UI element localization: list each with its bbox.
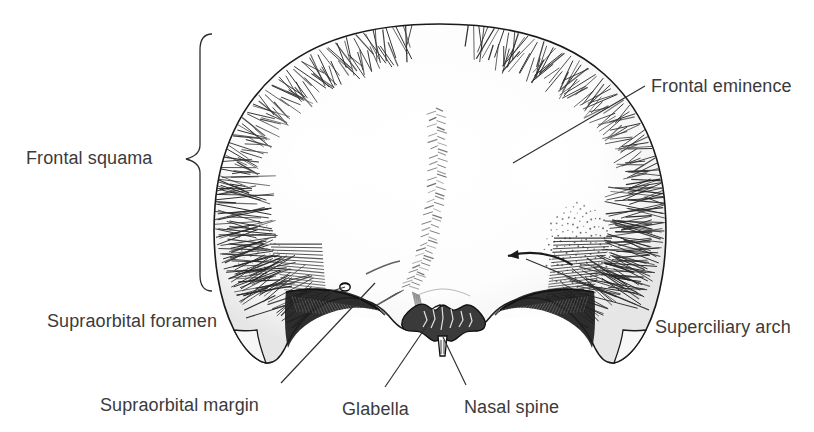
stipple-dot (610, 245, 612, 247)
stipple-dot (243, 233, 245, 235)
stipple-dot (261, 241, 263, 243)
stipple-dot (265, 234, 267, 236)
stipple-dot (585, 239, 587, 241)
stipple-dot (266, 225, 267, 226)
stipple-dot (601, 255, 603, 257)
stipple-dot (264, 255, 265, 256)
stipple-dot (594, 226, 596, 228)
stipple-dot (252, 263, 253, 264)
stipple-dot (549, 258, 551, 260)
stipple-dot (576, 286, 578, 288)
stipple-dot (237, 247, 239, 249)
stipple-dot (585, 232, 586, 233)
stipple-dot (575, 254, 577, 256)
hatch-stroke (542, 314, 561, 350)
hatch-stroke (554, 241, 611, 242)
stipple-dot (584, 268, 586, 270)
stipple-dot (265, 240, 267, 242)
stipple-dot (263, 229, 265, 231)
stipple-dot (252, 269, 253, 270)
stipple-dot (245, 246, 247, 248)
stipple-dot (250, 255, 252, 257)
stipple-dot (247, 261, 249, 263)
stipple-dot (273, 265, 275, 267)
stipple-dot (596, 286, 597, 287)
stipple-dot (600, 268, 602, 270)
hatch-stroke (524, 318, 566, 345)
frontal-eminence-left (244, 86, 416, 234)
stipple-dot (556, 246, 558, 248)
stipple-dot (249, 245, 251, 247)
stipple-dot (546, 238, 547, 239)
stipple-dot (561, 264, 563, 266)
stipple-dot (274, 236, 276, 238)
stipple-dot (274, 257, 275, 258)
leader-nasal-spine (443, 337, 466, 385)
stipple-dot (572, 250, 574, 252)
stipple-dot (244, 257, 245, 258)
stipple-dot (587, 248, 588, 249)
stipple-dot (247, 252, 248, 253)
stipple-dot (568, 286, 569, 287)
stipple-dot (265, 273, 266, 274)
stipple-dot (262, 247, 263, 248)
stipple-dot (557, 264, 559, 266)
stipple-dot (577, 245, 579, 247)
stipple-dot (589, 269, 591, 271)
stipple-dot (574, 242, 576, 244)
hatch-stroke (530, 313, 566, 344)
stipple-dot (256, 260, 258, 262)
stipple-dot (603, 219, 605, 221)
stipple-dot (572, 271, 574, 273)
stipple-dot (252, 250, 254, 252)
stipple-dot (607, 241, 609, 243)
stipple-dot (590, 282, 592, 284)
stipple-dot (572, 231, 573, 232)
stipple-dot (590, 235, 592, 237)
stipple-dot (257, 251, 259, 253)
stipple-dot (564, 246, 565, 247)
stipple-dot (580, 232, 582, 234)
stipple-dot (269, 243, 271, 245)
stipple-dot (249, 273, 251, 275)
stipple-dot (274, 243, 276, 245)
stipple-dot (264, 266, 265, 267)
stipple-dot (257, 267, 259, 269)
stipple-dot (242, 263, 243, 264)
hatch-stroke (474, 23, 475, 60)
stipple-dot (584, 255, 586, 257)
stipple-dot (255, 274, 257, 276)
stipple-dot (560, 280, 562, 282)
stipple-dot (595, 242, 596, 243)
stipple-dot (590, 276, 592, 278)
stipple-dot (580, 257, 581, 258)
frontal-bone-figure: Frontal squama Frontal eminence Supercil… (0, 0, 814, 432)
stipple-dot (248, 226, 250, 228)
nasal-spine (438, 336, 447, 356)
stipple-dot (245, 239, 246, 240)
stipple-dot (260, 263, 261, 264)
stipple-dot (603, 247, 605, 249)
stipple-dot (546, 265, 548, 267)
stipple-dot (603, 237, 605, 239)
stipple-dot (607, 272, 609, 274)
stipple-dot (598, 251, 600, 253)
stipple-dot (250, 239, 251, 240)
label-nasal-spine: Nasal spine (464, 398, 559, 416)
stipple-dot (269, 231, 270, 232)
stipple-dot (594, 267, 595, 268)
stipple-dot (595, 273, 597, 275)
stipple-dot (604, 260, 605, 261)
stipple-dot (570, 256, 571, 257)
label-glabella: Glabella (342, 400, 409, 418)
stipple-dot (268, 267, 270, 269)
stipple-dot (606, 230, 608, 232)
stipple-dot (575, 277, 577, 279)
stipple-dot (590, 242, 592, 244)
stipple-dot (576, 261, 577, 262)
stipple-dot (564, 279, 565, 280)
stipple-dot (260, 256, 262, 258)
stipple-dot (595, 257, 597, 259)
stipple-dot (595, 234, 596, 235)
stipple-dot (264, 279, 266, 281)
